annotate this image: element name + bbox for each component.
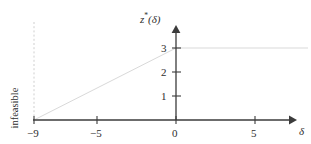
objective-value-curve [34,48,308,120]
infeasible-region-label: infeasible [10,88,21,129]
x-tick-label-minus9: −9 [27,128,39,139]
x-tick-label-minus5: −5 [90,128,102,139]
y-axis-arrowhead [172,25,181,33]
x-tick-label-0: 0 [172,128,178,139]
x-axis-arrowhead [289,116,297,125]
y-axis-title-argument: (δ) [148,13,160,25]
x-tick-label-5: 5 [251,128,257,139]
y-axis-title: z*(δ) [140,12,160,25]
y-tick-label-3: 3 [161,43,167,54]
plot-figure: −9 −5 0 5 1 2 3 z*(δ) δ infeasible [0,0,311,144]
y-tick-label-1: 1 [161,91,167,102]
y-tick-label-2: 2 [161,67,167,78]
x-axis-title: δ [299,126,304,137]
